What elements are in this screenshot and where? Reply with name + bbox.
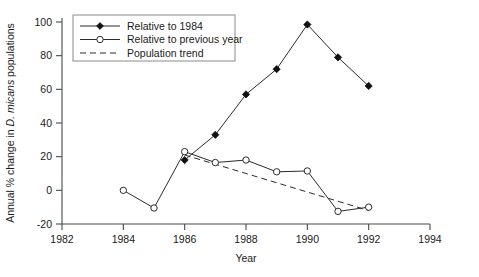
y-axis-ticks: [56, 22, 62, 224]
legend-label: Relative to previous year: [127, 33, 243, 45]
y-axis-title-species: D. micans: [4, 79, 16, 126]
data-point-circle: [335, 208, 341, 214]
data-point-circle: [120, 187, 126, 193]
x-tick-label: 1990: [296, 233, 320, 245]
data-point-circle: [243, 157, 249, 163]
y-tick-label: 0: [46, 184, 52, 196]
data-point-circle: [365, 204, 371, 210]
data-point-circle: [304, 168, 310, 174]
data-point-circle: [273, 169, 279, 175]
y-axis-title-before: Annual % change in: [4, 127, 16, 223]
chart-figure: -20020406080100 198219841986198819901992…: [0, 0, 479, 277]
x-axis-title: Year: [235, 252, 257, 264]
y-axis-tick-labels: -20020406080100: [34, 16, 52, 230]
line-chart: -20020406080100 198219841986198819901992…: [0, 0, 479, 277]
y-axis-title: Annual % change in D. micans populations: [4, 23, 16, 223]
data-point-circle: [97, 36, 103, 42]
y-tick-label: 40: [40, 117, 52, 129]
x-tick-label: 1982: [50, 233, 74, 245]
chart-legend: Relative to 1984Relative to previous yea…: [73, 15, 243, 61]
legend-label: Population trend: [127, 47, 204, 59]
x-axis-ticks: [62, 224, 430, 230]
y-tick-label: 20: [40, 150, 52, 162]
x-axis-tick-labels: 1982198419861988199019921994: [50, 233, 442, 245]
x-tick-label: 1984: [112, 233, 136, 245]
x-tick-label: 1988: [234, 233, 258, 245]
x-tick-label: 1994: [418, 233, 442, 245]
data-point-circle: [181, 148, 187, 154]
y-tick-label: 60: [40, 83, 52, 95]
y-tick-label: -20: [37, 218, 52, 230]
y-tick-label: 100: [34, 16, 52, 28]
series-relative-to-previous-year: [120, 148, 372, 214]
legend-label: Relative to 1984: [127, 20, 203, 32]
x-tick-label: 1986: [173, 233, 197, 245]
y-axis-title-after: populations: [4, 23, 16, 80]
x-tick-label: 1992: [357, 233, 381, 245]
data-point-circle: [151, 205, 157, 211]
data-point-circle: [212, 159, 218, 165]
y-tick-label: 80: [40, 49, 52, 61]
